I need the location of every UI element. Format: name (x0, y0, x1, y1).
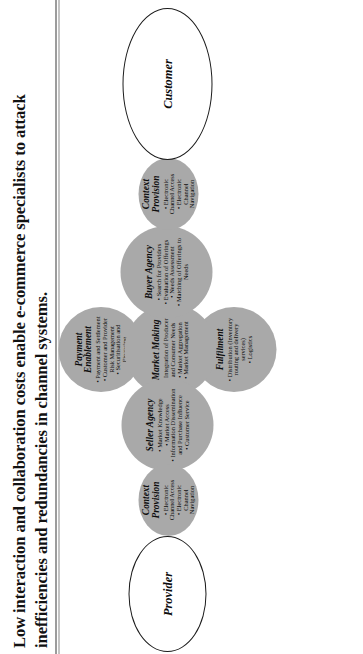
node-buyer-agency: Buyer Agency Search for Providers Evalua… (120, 226, 212, 318)
node-item-list: Electronic Channel Access Electronic Cha… (162, 174, 195, 215)
node-title: Payment Enablement (74, 326, 93, 373)
node-item-list: Search for Providers Evaluation of Offer… (155, 238, 188, 306)
list-item: Customer Service (183, 389, 190, 462)
node-title: Context Provision (141, 482, 160, 519)
node-title: Market Making (151, 320, 161, 381)
list-item: Distribution (Inventory routing and deli… (226, 318, 246, 381)
list-item: Electronic Channel Access (162, 174, 175, 215)
list-item: Integration of Producer and Consumer Nee… (162, 318, 175, 381)
list-item: Market Management (182, 318, 189, 381)
list-item: Logistics (246, 318, 253, 381)
node-title: Buyer Agency (144, 245, 154, 299)
caption-divider (58, 0, 59, 654)
diagram-canvas: Provider Context Provision Electronic Ch… (60, 0, 363, 654)
node-item-list: Distribution (Inventory routing and deli… (226, 318, 253, 381)
node-context-provision-right: Context Provision Electronic Channel Acc… (138, 158, 198, 230)
list-item: Electronic Channel Navigation (175, 480, 195, 521)
terminal-customer: Customer (122, 8, 212, 160)
list-item: Electronic Channel Navigation (175, 174, 195, 215)
node-item-list: Payment and Settlement Customer and Prov… (94, 317, 127, 383)
node-seller-agency: Seller Agency Market Knowledge Market Ac… (121, 379, 213, 471)
list-item: Customer and Provider Risk Management (101, 317, 114, 383)
figure-page: Low interaction and collaboration costs … (0, 0, 363, 654)
node-context-provision-left: Context Provision Electronic Channel Acc… (138, 464, 198, 536)
node-item-list: Market Knowledge Market Access Informati… (156, 389, 189, 462)
terminal-provider-label: Provider (161, 572, 174, 616)
list-item: Information Dissemination and Purchase I… (169, 389, 182, 462)
figure-caption: Low interaction and collaboration costs … (0, 0, 56, 654)
rotated-figure-container: Low interaction and collaboration costs … (0, 0, 363, 654)
list-item: Matching of Offerings to Needs (175, 238, 188, 306)
terminal-customer-label: Customer (161, 59, 174, 109)
node-title: Seller Agency (145, 398, 155, 451)
terminal-provider: Provider (128, 536, 206, 652)
node-item-list: Electronic Channel Access Electronic Cha… (162, 480, 195, 521)
list-item: Electronic Channel Access (162, 480, 175, 521)
node-item-list: Integration of Producer and Consumer Nee… (162, 318, 189, 381)
node-title: Context Provision (141, 176, 160, 213)
